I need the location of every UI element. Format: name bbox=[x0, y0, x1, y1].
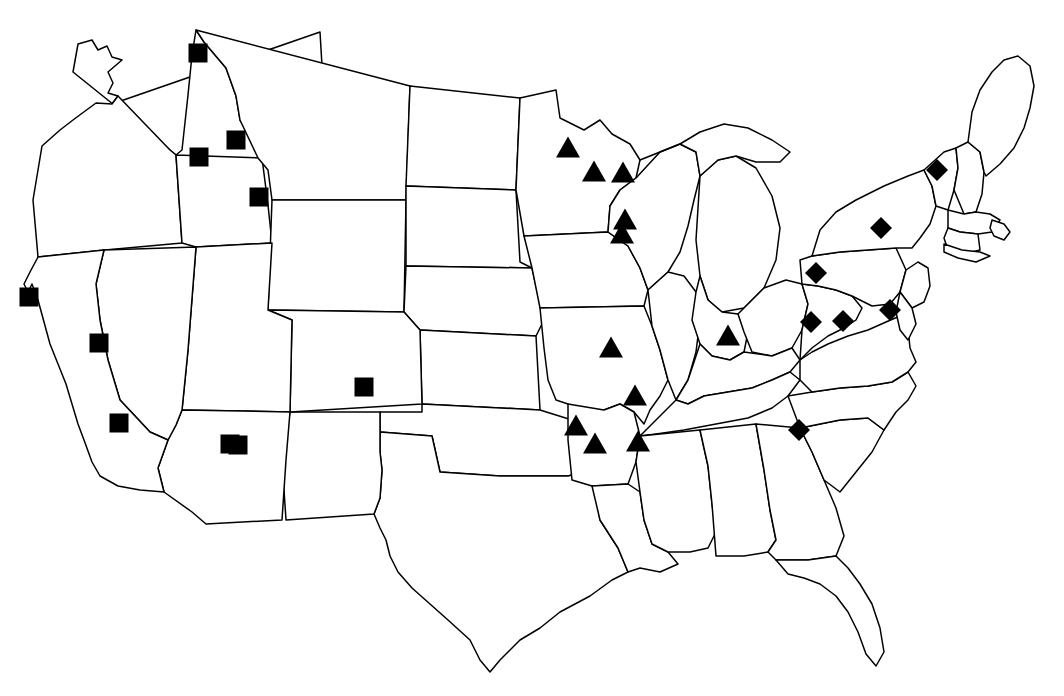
state-arizona bbox=[158, 410, 290, 524]
state-south-dakota bbox=[406, 186, 532, 268]
state-new-mexico bbox=[282, 412, 382, 520]
state-kansas bbox=[420, 330, 540, 410]
state-north-dakota bbox=[406, 86, 520, 190]
state-missouri bbox=[540, 306, 668, 424]
us-map-figure: United States state outline map with sit… bbox=[0, 0, 1064, 696]
cape-cod bbox=[990, 220, 1010, 240]
us-state-outline-map: United States state outline map with sit… bbox=[0, 0, 1064, 696]
state-outlines bbox=[24, 30, 1034, 672]
state-arkansas bbox=[568, 404, 640, 486]
state-wyoming bbox=[268, 200, 406, 312]
state-new-york bbox=[812, 170, 936, 256]
state-florida bbox=[776, 556, 884, 666]
state-nebraska bbox=[404, 266, 544, 336]
